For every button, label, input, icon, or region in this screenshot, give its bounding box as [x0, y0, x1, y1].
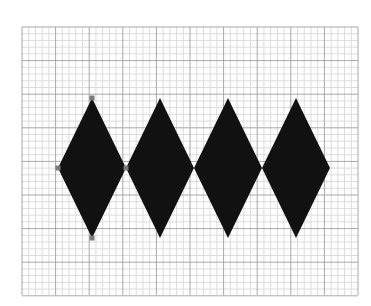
- diamond-shape-3[interactable]: [194, 98, 262, 238]
- resize-handle[interactable]: [90, 96, 95, 101]
- resize-handle[interactable]: [56, 166, 61, 171]
- diamond-shape-4[interactable]: [262, 98, 330, 238]
- diamond-shapes: [58, 98, 330, 238]
- drawing-canvas[interactable]: [0, 0, 371, 306]
- resize-handle[interactable]: [124, 166, 129, 171]
- resize-handle[interactable]: [90, 236, 95, 241]
